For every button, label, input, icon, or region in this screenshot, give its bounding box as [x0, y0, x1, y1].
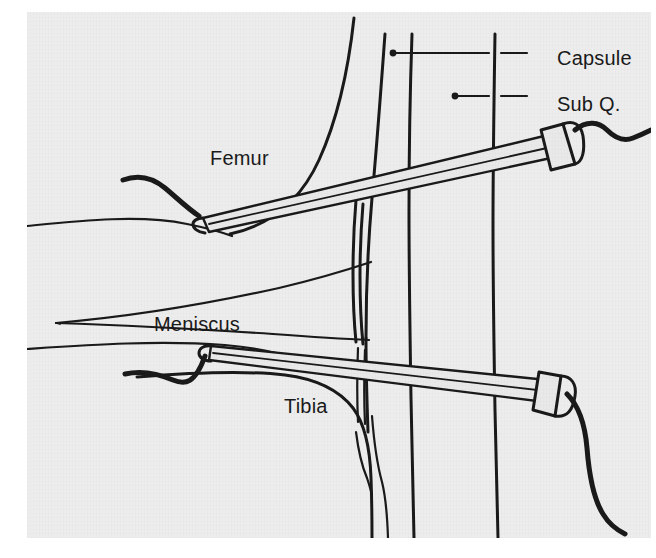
subq-vertical-line [409, 34, 414, 538]
inferior-hub [533, 372, 561, 416]
label-femur: Femur [210, 148, 269, 168]
superior-hub [541, 124, 575, 170]
label-capsule: Capsule [557, 48, 632, 68]
superior-instrument [123, 123, 651, 234]
subq-leader [452, 93, 527, 100]
figure-root: .ink { fill: none; stroke: #1a1a1a; stro… [0, 0, 656, 558]
illustration-panel: .ink { fill: none; stroke: #1a1a1a; stro… [27, 12, 651, 538]
anatomy-illustration: .ink { fill: none; stroke: #1a1a1a; stro… [27, 12, 651, 538]
label-subq: Sub Q. [557, 94, 620, 114]
label-meniscus: Meniscus [154, 314, 240, 334]
outer-skin-line [493, 34, 498, 538]
tibial-spine-line [372, 416, 388, 538]
label-tibia: Tibia [284, 396, 328, 416]
